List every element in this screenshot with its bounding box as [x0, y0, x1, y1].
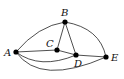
- node-e: [103, 54, 108, 59]
- label-a: A: [3, 47, 11, 58]
- edge-b-d: [65, 22, 76, 55]
- label-c: C: [46, 38, 54, 49]
- label-b: B: [60, 7, 68, 18]
- edge-a-d: [16, 52, 76, 62]
- node-d: [73, 52, 78, 57]
- node-b: [62, 19, 67, 24]
- edge-a-e: [16, 52, 106, 70]
- edge-b-c: [57, 22, 65, 50]
- edge-d-e: [76, 55, 106, 57]
- node-a: [13, 49, 18, 54]
- label-e: E: [110, 52, 119, 63]
- node-c: [54, 47, 59, 52]
- label-d: D: [73, 58, 82, 69]
- graph-diagram: A B C D E: [0, 0, 124, 79]
- edge-a-c: [16, 50, 57, 52]
- edge-c-d: [57, 50, 76, 55]
